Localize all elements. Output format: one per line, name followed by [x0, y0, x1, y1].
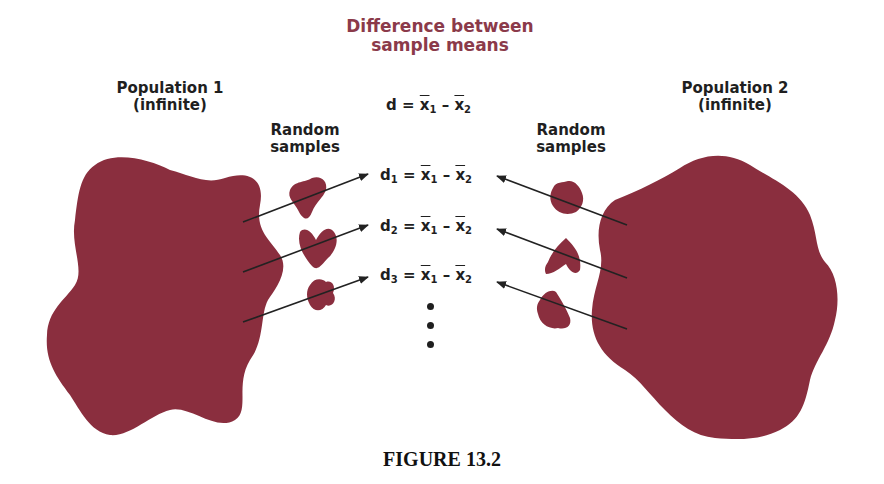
ellipsis-dot-1: [427, 303, 434, 310]
population-1-blob: [47, 157, 284, 435]
equation-main: d = x1 – x2: [386, 96, 471, 115]
sample-blob-right-3: [537, 291, 570, 329]
sample-blob-right-2: [545, 238, 580, 274]
equation-d1: d1 = x1 – x2: [380, 166, 472, 185]
equation-d2: d2 = x1 – x2: [380, 217, 472, 236]
population-2-blob: [592, 156, 838, 439]
figure-caption: FIGURE 13.2: [342, 448, 542, 471]
ellipsis-dot-2: [427, 322, 434, 329]
diagram-artwork: [0, 0, 884, 484]
equation-d3: d3 = x1 – x2: [380, 266, 472, 285]
ellipsis-dot-3: [427, 341, 434, 348]
